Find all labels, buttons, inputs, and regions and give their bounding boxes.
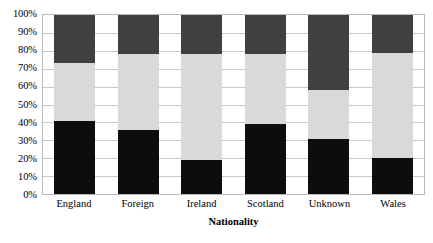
bar-stack	[245, 15, 286, 194]
bar-group[interactable]	[372, 15, 413, 194]
bar-segment-top[interactable]	[372, 15, 413, 53]
bar-segment-top[interactable]	[54, 15, 95, 63]
y-axis: 0%10%20%30%40%50%60%70%80%90%100%	[0, 14, 42, 195]
stacked-bar-chart: 0%10%20%30%40%50%60%70%80%90%100% Englan…	[0, 0, 433, 243]
y-axis-tick-label: 10%	[18, 172, 37, 183]
bar-segment-middle[interactable]	[54, 63, 95, 120]
x-axis-title: Nationality	[42, 216, 425, 227]
x-axis-tick-label: Wales	[373, 198, 414, 210]
bar-segment-top[interactable]	[308, 15, 349, 90]
bar-segment-top[interactable]	[118, 15, 159, 54]
bar-segment-middle[interactable]	[308, 90, 349, 138]
bar-segment-bottom[interactable]	[181, 160, 222, 194]
y-axis-tick-label: 80%	[18, 45, 37, 56]
bar-stack	[308, 15, 349, 194]
y-axis-tick-label: 20%	[18, 154, 37, 165]
bar-stack	[372, 15, 413, 194]
bar-segment-middle[interactable]	[372, 53, 413, 159]
x-axis-tick-label: Foreign	[117, 198, 158, 210]
bar-stack	[54, 15, 95, 194]
bar-segment-top[interactable]	[181, 15, 222, 54]
bar-group[interactable]	[245, 15, 286, 194]
bar-segment-middle[interactable]	[181, 54, 222, 160]
bar-group[interactable]	[308, 15, 349, 194]
bar-segment-middle[interactable]	[118, 54, 159, 129]
y-axis-tick-label: 30%	[18, 135, 37, 146]
bar-stack	[181, 15, 222, 194]
y-axis-tick-label: 70%	[18, 63, 37, 74]
y-axis-tick-label: 0%	[23, 190, 37, 201]
bar-segment-bottom[interactable]	[118, 130, 159, 194]
bar-segment-middle[interactable]	[245, 54, 286, 124]
y-axis-tick-label: 50%	[18, 99, 37, 110]
x-axis-tick-label: Unknown	[309, 198, 350, 210]
x-axis-tick-label: Ireland	[181, 198, 222, 210]
y-axis-tick-label: 60%	[18, 81, 37, 92]
bars-layer	[43, 15, 424, 194]
bar-segment-bottom[interactable]	[54, 121, 95, 194]
bar-stack	[118, 15, 159, 194]
bar-segment-bottom[interactable]	[372, 158, 413, 194]
y-axis-tick-label: 40%	[18, 117, 37, 128]
bar-segment-top[interactable]	[245, 15, 286, 54]
bar-segment-bottom[interactable]	[308, 139, 349, 194]
bar-segment-bottom[interactable]	[245, 124, 286, 194]
x-axis: EnglandForeignIrelandScotlandUnknownWale…	[42, 198, 425, 210]
bar-group[interactable]	[54, 15, 95, 194]
y-axis-tick-label: 90%	[18, 27, 37, 38]
x-axis-tick-label: England	[53, 198, 94, 210]
bar-group[interactable]	[118, 15, 159, 194]
bar-group[interactable]	[181, 15, 222, 194]
x-axis-tick-label: Scotland	[245, 198, 286, 210]
plot-area	[42, 14, 425, 195]
y-axis-tick-label: 100%	[13, 9, 37, 20]
